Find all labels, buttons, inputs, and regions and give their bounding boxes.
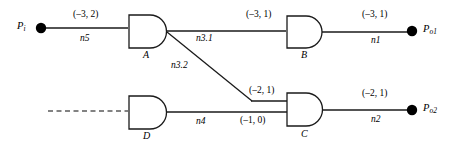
weight-label-n5: (–3, 2): [73, 10, 98, 20]
net-label-n4: n4: [196, 117, 206, 127]
net-label-n1: n1: [371, 36, 381, 46]
net-label-n3-1: n3.1: [196, 34, 213, 44]
weight-label-n1: (–3, 1): [362, 10, 387, 20]
weight-label-n2: (–2, 1): [362, 89, 387, 99]
weight-label-n3-1: (–3, 1): [246, 10, 271, 20]
port-label-po1: Po1: [423, 24, 437, 35]
circuit-wiring: [0, 0, 460, 148]
gate-d-body: [129, 96, 167, 129]
gate-c-body: [287, 93, 323, 126]
net-label-n2: n2: [371, 115, 381, 125]
port-label-po2: Po2: [423, 103, 437, 114]
net-label-n5: n5: [80, 34, 90, 44]
gate-a-body: [129, 15, 167, 48]
circuit-diagram: Pi (–3, 2) n5 A (–3, 1) n3.1 n3.2 (–2, 1…: [0, 0, 460, 148]
gate-label-d: D: [143, 131, 150, 141]
gate-label-a: A: [143, 50, 149, 60]
net-label-n3-2: n3.2: [171, 61, 188, 71]
weight-label-n4: (–1, 0): [240, 116, 265, 126]
output-node-po2-dot: [407, 105, 417, 115]
gate-b-body: [287, 16, 322, 48]
input-node-pi-dot: [36, 23, 46, 33]
gate-label-b: B: [301, 50, 307, 60]
port-label-pi: Pi: [17, 21, 26, 32]
weight-label-n3-2: (–2, 1): [249, 86, 274, 96]
gate-label-c: C: [301, 129, 308, 139]
output-node-po1-dot: [407, 26, 417, 36]
